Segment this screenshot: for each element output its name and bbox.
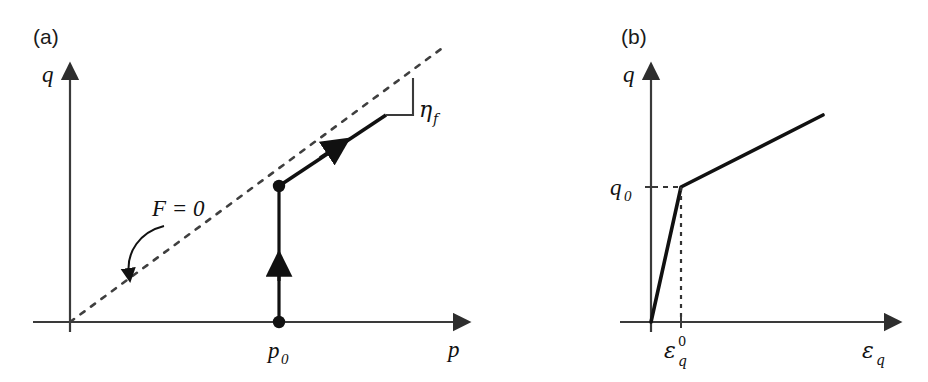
q0-label-subscript: 0 xyxy=(624,188,632,204)
panel-b-tag: (b) xyxy=(621,25,647,48)
panel-b-x-axis-label-base: ε xyxy=(862,338,874,363)
slope-triangle xyxy=(386,78,413,115)
p0-label-base: p xyxy=(266,338,280,363)
panel-b-x-axis-label-group: ε q xyxy=(862,338,885,368)
p0-label-subscript: 0 xyxy=(281,351,289,367)
eps-q0-label-base: ε xyxy=(664,338,676,363)
stress-path-yield-marker xyxy=(273,180,285,192)
p0-label-group: p 0 xyxy=(266,338,289,367)
q0-label-group: q 0 xyxy=(610,175,632,204)
eps-q0-label-group: ε q 0 xyxy=(664,334,687,369)
plastic-stress-path-arrow xyxy=(320,146,338,158)
stress-path-start-marker xyxy=(273,316,285,328)
panel-b-x-axis-label-subscript: q xyxy=(876,352,885,368)
stress-strain-response-curve xyxy=(651,115,823,322)
panel-a-y-axis-label: q xyxy=(42,62,54,87)
panel-a: (a) q p η f F = 0 xyxy=(33,25,460,367)
figure-container: (a) q p η f F = 0 xyxy=(0,0,928,382)
slope-label-eta-subscript: f xyxy=(432,111,441,127)
panel-a-tag: (a) xyxy=(33,25,59,48)
slope-label-group: η f xyxy=(419,97,441,127)
eps-q0-label-superscript: 0 xyxy=(678,334,686,349)
eps-q0-label-subscript: q xyxy=(678,353,687,369)
figure-canvas: (a) q p η f F = 0 xyxy=(0,0,928,382)
panel-b-y-axis-label: q xyxy=(623,62,635,87)
slope-label-eta: η xyxy=(419,97,432,122)
panel-b: (b) q ε q q 0 ε xyxy=(610,25,886,369)
q0-label-base: q xyxy=(610,175,622,200)
yield-locus-dashed-line xyxy=(70,49,441,322)
panel-a-x-axis-label: p xyxy=(446,337,460,362)
yield-locus-annotation-label: F = 0 xyxy=(151,196,205,221)
